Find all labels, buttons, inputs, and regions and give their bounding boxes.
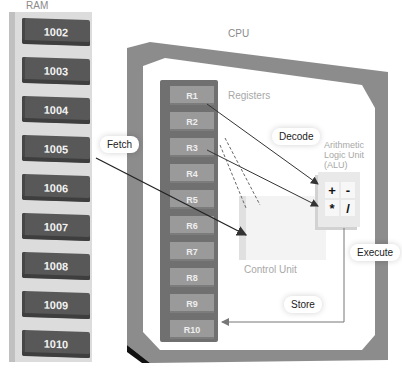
decode-arrow-r3: [207, 150, 318, 206]
execute-label: Execute: [350, 244, 400, 261]
flow-arrows: [0, 0, 402, 375]
control-dashed-2: [225, 138, 260, 205]
store-arrow: [222, 228, 344, 322]
store-label: Store: [284, 296, 322, 313]
fetch-label: Fetch: [100, 136, 139, 153]
decode-label: Decode: [272, 128, 320, 145]
fetch-arrow: [96, 158, 246, 235]
control-dashed-1: [220, 145, 246, 208]
